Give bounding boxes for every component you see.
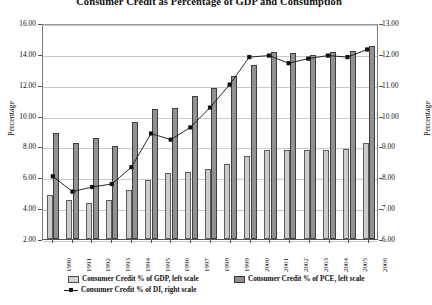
chart-title: Consumer Credit as Percentage of GDP and… [0, 0, 418, 7]
chart-legend: Consumer Credit % of GDP, left scale Con… [0, 274, 418, 302]
y-tick-label-left: 10.00 [2, 112, 36, 121]
y-tick-mark-right [379, 55, 383, 56]
y-tick-mark-right [379, 178, 383, 179]
x-tick-mark [52, 240, 53, 243]
x-tick-mark [190, 240, 191, 243]
legend-label-di: Consumer Credit % of DI, right scale [81, 286, 196, 294]
y-tick-mark-right [379, 147, 383, 148]
x-tick-mark [151, 240, 152, 243]
x-tick-mark [72, 240, 73, 243]
y-tick-label-left: 8.00 [2, 142, 36, 151]
line-marker-di: 2003: 11.9 [306, 57, 310, 61]
line-marker-di: 1990: 8.05 [51, 174, 55, 178]
y-tick-label-left: 12.00 [2, 81, 36, 90]
x-tick-mark [348, 240, 349, 243]
line-series-layer: 1990: 8.051991: 7.551992: 7.71993: 7.819… [43, 25, 377, 239]
y-tick-label-right: 9.00 [382, 142, 416, 151]
line-marker-di: 2005: 11.95 [345, 55, 349, 59]
y-tick-label-left: 4.00 [2, 204, 36, 213]
x-tick-mark [210, 240, 211, 243]
x-tick-mark [230, 240, 231, 243]
y-tick-label-right: 12.00 [382, 50, 416, 59]
y-tick-label-right: 6.00 [382, 235, 416, 244]
y-tick-label-left: 2.00 [2, 235, 36, 244]
x-tick-mark [91, 240, 92, 243]
legend-swatch-gdp [68, 276, 79, 283]
x-tick-mark [170, 240, 171, 243]
line-marker-di: 2004: 12 [326, 53, 330, 57]
legend-item-pce: Consumer Credit % of PCE, left scale [234, 275, 365, 283]
line-marker-di: 1995: 9.45 [149, 131, 153, 135]
line-marker-di: 1999: 11.05 [228, 83, 232, 87]
line-marker-di: 2000: 11.95 [247, 55, 251, 59]
line-marker-di: 1994: 8.35 [129, 165, 133, 169]
legend-label-gdp: Consumer Credit % of GDP, left scale [82, 275, 199, 283]
x-tick-mark [269, 240, 270, 243]
y-tick-label-left: 16.00 [2, 19, 36, 28]
y-tick-label-right: 11.00 [382, 81, 416, 90]
y-axis-title-right: Percentage [423, 84, 432, 154]
y-tick-mark-left [38, 240, 42, 241]
line-marker-di: 1991: 7.55 [70, 190, 74, 194]
x-tick-mark [250, 240, 251, 243]
y-tick-label-right: 7.00 [382, 204, 416, 213]
line-marker-di: 1997: 9.65 [188, 125, 192, 129]
y-tick-label-left: 6.00 [2, 173, 36, 182]
y-tick-mark-right [379, 24, 383, 25]
y-tick-label-right: 8.00 [382, 173, 416, 182]
y-tick-mark-right [379, 240, 383, 241]
x-tick-mark [131, 240, 132, 243]
line-marker-di: 2002: 11.75 [287, 61, 291, 65]
line-marker-di: 2001: 12 [267, 53, 271, 57]
y-tick-label-right: 10.00 [382, 112, 416, 121]
line-path-di [53, 49, 367, 191]
x-tick-mark [368, 240, 369, 243]
y-tick-mark-right [379, 209, 383, 210]
legend-label-pce: Consumer Credit % of PCE, left scale [248, 275, 365, 283]
line-marker-di: 1992: 7.7 [90, 185, 94, 189]
y-tick-mark-right [379, 86, 383, 87]
x-tick-mark [289, 240, 290, 243]
x-tick-mark [111, 240, 112, 243]
legend-item-di: Consumer Credit % of DI, right scale [64, 286, 196, 294]
y-tick-mark-right [379, 117, 383, 118]
legend-item-gdp: Consumer Credit % of GDP, left scale [68, 275, 199, 283]
plot-area: 1990: 8.051991: 7.551992: 7.71993: 7.819… [42, 24, 378, 240]
legend-swatch-pce [234, 276, 245, 283]
line-marker-di: 2006: 12.2 [365, 47, 369, 51]
x-axis: 1990199119921993199419951996199719981999… [42, 242, 378, 274]
line-marker-di: 1993: 7.8 [110, 182, 114, 186]
x-tick-mark [309, 240, 310, 243]
x-tick-mark [329, 240, 330, 243]
x-tick-label: 2006 [381, 260, 411, 272]
line-marker-di: 1998: 10.3 [208, 105, 212, 109]
legend-marker-di [64, 287, 78, 294]
y-tick-label-right: 13.00 [382, 19, 416, 28]
line-marker-di: 1996: 9.25 [169, 138, 173, 142]
y-tick-label-left: 14.00 [2, 50, 36, 59]
